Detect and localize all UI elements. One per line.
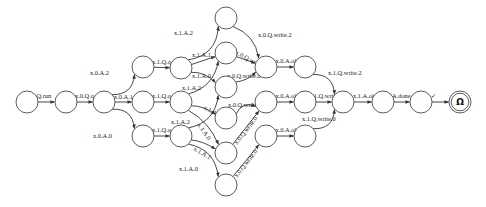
edge-label: x.1.A.2	[174, 29, 193, 36]
state-node	[215, 107, 237, 129]
state-node	[294, 56, 316, 78]
state-node	[132, 56, 154, 78]
state-circle	[16, 91, 38, 113]
state-circle	[255, 56, 277, 78]
state-circle	[170, 125, 192, 147]
state-circle	[132, 125, 154, 147]
state-machine-diagram: Q.runx.0.Q.qx.0.A.2x.0.A.1x.0.A.0x.1.Q.q…	[0, 0, 486, 207]
state-node	[132, 125, 154, 147]
state-circle	[294, 56, 316, 78]
edge-label: x.0.A.2	[90, 69, 109, 76]
state-node	[255, 91, 277, 113]
state-node	[170, 91, 192, 113]
edge-label: x.1.A.1	[192, 51, 211, 58]
state-circle	[170, 57, 192, 79]
state-node	[215, 7, 237, 29]
edge-label: x.1.A.0	[196, 122, 213, 142]
edge-label: Q.run	[37, 92, 53, 99]
edge-label: x.1.A.0	[192, 72, 211, 79]
state-node	[170, 57, 192, 79]
state-circle	[294, 91, 316, 113]
state-node	[93, 91, 115, 113]
edge-label: x.0.A.0	[93, 132, 112, 139]
state-circle	[215, 142, 237, 164]
edge-label: x.1.Q.write.2	[328, 69, 362, 76]
state-node	[215, 42, 237, 64]
edge-label: x.0.A.1	[114, 93, 133, 100]
state-node	[294, 125, 316, 147]
state-node	[215, 76, 237, 98]
edge-n2-a0	[112, 109, 134, 128]
state-circle	[93, 91, 115, 113]
state-circle	[332, 91, 354, 113]
state-circle	[255, 125, 277, 147]
edge-label: x.1.Q.write.0	[302, 115, 336, 122]
edge-label: x.1.Q.q	[152, 126, 172, 133]
edge-label: x.1.A.2	[182, 84, 201, 91]
omega-icon: Ω	[456, 97, 464, 107]
state-circle	[215, 42, 237, 64]
state-node	[215, 142, 237, 164]
edge-label: A.done	[392, 92, 411, 99]
state-circle	[215, 174, 237, 196]
state-node	[372, 91, 394, 113]
state-circle	[215, 76, 237, 98]
state-node	[215, 174, 237, 196]
state-node	[16, 91, 38, 113]
state-node	[255, 125, 277, 147]
state-node	[410, 91, 432, 113]
state-node	[170, 125, 192, 147]
state-circle	[410, 91, 432, 113]
edge-label: x.1.A.1	[193, 145, 213, 161]
state-circle	[255, 91, 277, 113]
state-circle	[215, 7, 237, 29]
state-node	[255, 56, 277, 78]
edge-label: x.1.A.2	[171, 118, 190, 125]
edge-label: x.1.Q.q	[152, 92, 172, 99]
state-node	[55, 91, 77, 113]
state-circle	[170, 91, 192, 113]
state-node	[132, 91, 154, 113]
state-circle	[294, 125, 316, 147]
state-circle	[215, 107, 237, 129]
state-node	[332, 91, 354, 113]
state-circle	[132, 56, 154, 78]
edge-label: x.1.Q.q	[152, 58, 172, 65]
state-node	[294, 91, 316, 113]
final-state-node: Ω	[449, 91, 471, 113]
edge-label: x.1.A.0	[179, 165, 198, 172]
edge-label: x.0.Q.q	[75, 92, 95, 99]
state-circle	[55, 91, 77, 113]
state-circle	[132, 91, 154, 113]
state-circle	[372, 91, 394, 113]
edge-label: x.0.Q.write.2	[258, 31, 292, 38]
edge-n2-a2	[112, 75, 134, 95]
